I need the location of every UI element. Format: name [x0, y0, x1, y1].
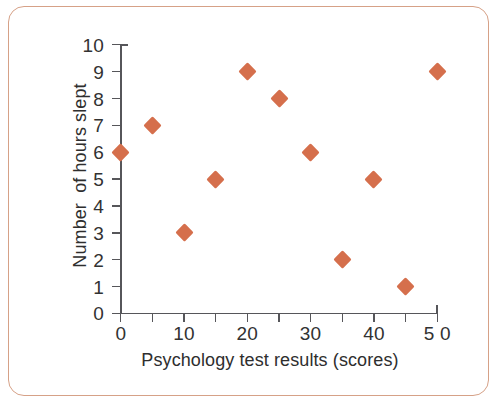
- x-tick: [373, 314, 374, 322]
- y-tick: [112, 125, 120, 126]
- x-tick: [183, 314, 184, 322]
- data-point-marker: [112, 143, 130, 161]
- data-point-marker: [333, 250, 351, 268]
- y-tick: [112, 98, 120, 99]
- data-point-marker: [143, 116, 161, 134]
- x-tick: [215, 314, 216, 322]
- data-point-marker: [270, 89, 288, 107]
- data-point-marker: [428, 62, 446, 80]
- x-tick: [405, 314, 406, 322]
- data-point-marker: [396, 277, 414, 295]
- y-axis-title: Number of hours slept: [70, 51, 91, 301]
- x-tick: [437, 314, 438, 322]
- y-tick: [112, 178, 120, 179]
- y-tick: [112, 71, 120, 72]
- x-tick: [278, 314, 279, 322]
- data-point-marker: [207, 170, 225, 188]
- y-tick: [112, 205, 120, 206]
- data-point-marker: [175, 224, 193, 242]
- x-tick: [247, 314, 248, 322]
- x-tick: [120, 314, 121, 322]
- y-tick-label: 0: [78, 304, 104, 323]
- y-tick: [112, 286, 120, 287]
- data-point-marker: [238, 62, 256, 80]
- y-tick: [112, 232, 120, 233]
- x-tick-label: 5 0: [407, 324, 467, 343]
- chart-canvas: 012345678910 0102030405 0 Psychology tes…: [0, 0, 501, 406]
- scatter-plot-figure: 012345678910 0102030405 0 Psychology tes…: [0, 0, 501, 406]
- x-tick-label: 30: [281, 324, 341, 343]
- x-tick: [152, 314, 153, 322]
- x-tick-label: 20: [217, 324, 277, 343]
- x-tick-label: 40: [344, 324, 404, 343]
- y-axis-line: [120, 44, 122, 314]
- x-axis-end-cap: [436, 305, 438, 314]
- y-tick: [112, 313, 120, 314]
- x-tick: [310, 314, 311, 322]
- y-tick: [112, 44, 120, 45]
- x-tick-label: 10: [154, 324, 214, 343]
- x-tick-label: 0: [91, 324, 151, 343]
- y-axis-top-cap: [120, 44, 128, 46]
- x-tick: [342, 314, 343, 322]
- x-axis-title: Psychology test results (scores): [70, 350, 470, 371]
- y-tick: [112, 259, 120, 260]
- data-point-marker: [301, 143, 319, 161]
- data-point-marker: [365, 170, 383, 188]
